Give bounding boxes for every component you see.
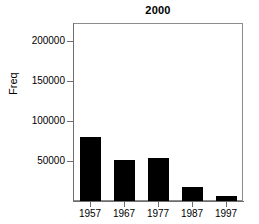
bar-chart-figure: 2000 Freq 50000100000150000200000 195719…	[0, 0, 259, 224]
y-axis-tick	[67, 161, 73, 162]
bar	[216, 196, 237, 201]
x-axis-tick	[124, 202, 125, 207]
x-axis-tick-label: 1997	[206, 208, 246, 219]
y-axis-tick-label: 50000	[5, 156, 65, 166]
y-axis-tick	[67, 81, 73, 82]
bar	[114, 160, 135, 201]
y-axis-tick	[67, 121, 73, 122]
x-axis-tick	[90, 202, 91, 207]
bar	[182, 187, 203, 201]
x-axis-tick	[158, 202, 159, 207]
y-axis-tick-label: 150000	[5, 76, 65, 86]
y-axis-tick-label: 200000	[5, 36, 65, 46]
y-axis-tick	[67, 41, 73, 42]
bar	[148, 158, 169, 201]
bar	[80, 137, 101, 201]
y-axis-tick-label: 100000	[5, 116, 65, 126]
chart-title: 2000	[73, 4, 243, 16]
x-axis-tick	[226, 202, 227, 207]
x-axis-tick	[192, 202, 193, 207]
y-axis-line	[73, 23, 74, 202]
